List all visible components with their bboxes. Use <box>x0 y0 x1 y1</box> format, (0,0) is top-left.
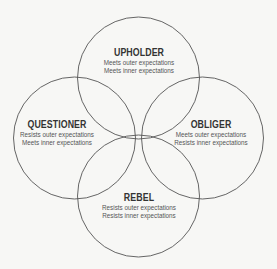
upholder-line-2: Meets inner expectations <box>104 67 174 75</box>
obliger-line-2: Resists inner expectations <box>174 139 248 147</box>
questioner-label: QUESTIONER Resists outer expectations Me… <box>16 119 98 147</box>
upholder-line-1: Meets outer expectations <box>104 59 174 67</box>
rebel-title: REBEL <box>103 192 175 204</box>
obliger-label: OBLIGER Meets outer expectations Resists… <box>170 119 252 147</box>
upholder-label: UPHOLDER Meets outer expectations Meets … <box>100 47 178 75</box>
rebel-line-1: Resists outer expectations <box>102 204 176 212</box>
four-tendencies-diagram: UPHOLDER Meets outer expectations Meets … <box>0 0 277 269</box>
questioner-line-2: Meets inner expectations <box>20 139 94 147</box>
obliger-title: OBLIGER <box>175 119 247 131</box>
upholder-title: UPHOLDER <box>105 47 174 59</box>
obliger-line-1: Meets outer expectations <box>174 131 248 139</box>
rebel-line-2: Resists inner expectations <box>102 212 176 220</box>
questioner-line-1: Resists outer expectations <box>20 131 94 139</box>
rebel-label: REBEL Resists outer expectations Resists… <box>98 192 180 220</box>
questioner-title: QUESTIONER <box>21 119 93 131</box>
